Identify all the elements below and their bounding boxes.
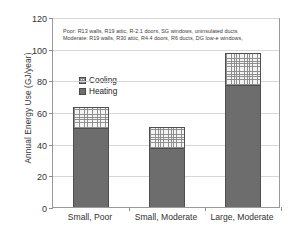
plot-area: Poor: R13 walls, R19 attic, R-2.1 doors,…	[52, 18, 280, 208]
bar-segment-heating	[73, 128, 109, 207]
chart-figure: Annual Energy Use (GJ/year) Poor: R13 wa…	[0, 0, 289, 249]
y-axis-tick	[49, 208, 53, 209]
x-axis-tick	[205, 207, 206, 211]
y-axis-tick-label: 60	[37, 109, 47, 119]
x-axis-tick	[129, 207, 130, 211]
chart-annotation: Poor: R13 walls, R19 attic, R-2.1 doors,…	[63, 28, 273, 42]
gridline	[53, 50, 279, 51]
bar-segment-cooling	[149, 127, 185, 148]
gridline	[53, 18, 279, 19]
bar-3	[225, 53, 261, 207]
bar-2	[149, 127, 185, 207]
annotation-line-2: Moderate: R19 walls, R30 attic, R4.4 doo…	[63, 35, 273, 42]
chart-legend: Cooling Heating	[79, 75, 117, 97]
bar-segment-cooling	[225, 53, 261, 85]
x-axis-tick-label: Small, Moderate	[135, 212, 198, 222]
y-axis-tick	[49, 113, 53, 114]
y-axis-tick	[49, 18, 53, 19]
y-axis-tick	[49, 81, 53, 82]
y-axis-tick	[49, 50, 53, 51]
heating-swatch-icon	[79, 88, 86, 95]
y-axis-tick	[49, 145, 53, 146]
bar-segment-heating	[149, 148, 185, 207]
y-axis-tick-label: 0	[42, 204, 47, 214]
y-axis-tick-label: 100	[32, 46, 47, 56]
x-axis-tick-label: Large, Moderate	[210, 212, 273, 222]
x-axis-tick	[281, 207, 282, 211]
legend-item-heating: Heating	[79, 86, 117, 97]
legend-label-heating: Heating	[89, 86, 117, 97]
y-axis-tick	[49, 176, 53, 177]
bar-1	[73, 107, 109, 207]
y-axis-tick-label: 40	[37, 141, 47, 151]
annotation-line-1: Poor: R13 walls, R19 attic, R-2.1 doors,…	[63, 28, 273, 35]
y-axis-tick-label: 20	[37, 172, 47, 182]
y-axis-tick-label: 120	[32, 14, 47, 24]
y-axis-tick-label: 80	[37, 77, 47, 87]
x-axis-tick-label: Small, Poor	[68, 212, 112, 222]
bar-segment-cooling	[73, 107, 109, 128]
bar-segment-heating	[225, 85, 261, 207]
